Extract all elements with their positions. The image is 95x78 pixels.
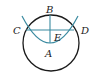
label-a: A bbox=[44, 48, 52, 59]
label-e: E bbox=[53, 32, 62, 43]
label-d: D bbox=[80, 25, 89, 36]
label-b: B bbox=[45, 4, 53, 15]
label-c: C bbox=[13, 25, 21, 36]
geometry-diagram: B C D E A bbox=[0, 0, 95, 78]
